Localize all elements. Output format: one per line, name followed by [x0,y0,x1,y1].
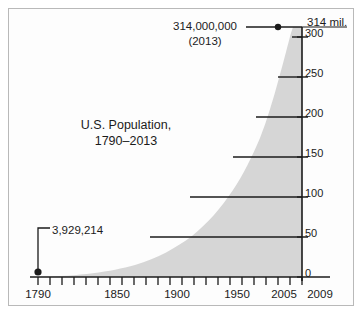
x-axis-label-1790: 1790 [18,288,58,300]
chart-title-line-2: 1790–2013 [56,133,196,149]
chart-title: U.S. Population, 1790–2013 [56,117,196,149]
y-axis-label-100: 100 [305,187,323,199]
y-axis-label-50: 50 [305,227,317,239]
y-axis-label-0: 0 [305,267,311,279]
annotation-top-data-point [275,24,281,30]
population-chart-figure: 314 mil. 300 250 200 150 100 50 0 1790 1… [0,0,364,316]
annotation-top-year: (2013) [152,34,258,49]
annotation-top: 314,000,000 (2013) [152,19,258,49]
chart-title-line-1: U.S. Population, [56,117,196,133]
x-axis-label-1950: 1950 [217,288,257,300]
x-axis-ticks [38,277,302,285]
annotation-left-data-point [34,268,41,275]
y-axis-label-150: 150 [305,147,323,159]
x-axis-label-1850: 1850 [97,288,137,300]
y-axis-label-300: 300 [305,27,323,39]
y-axis-label-250: 250 [305,67,323,79]
annotation-left-leader-line [38,228,50,272]
annotation-top-value: 314,000,000 [152,19,258,34]
y-axis-label-200: 200 [305,107,323,119]
x-axis-label-2009: 2009 [300,288,340,300]
x-axis-label-1900: 1900 [157,288,197,300]
x-axis-label-2005: 2005 [264,288,304,300]
annotation-left-value: 3,929,214 [52,223,103,237]
population-area-fill [38,27,302,277]
